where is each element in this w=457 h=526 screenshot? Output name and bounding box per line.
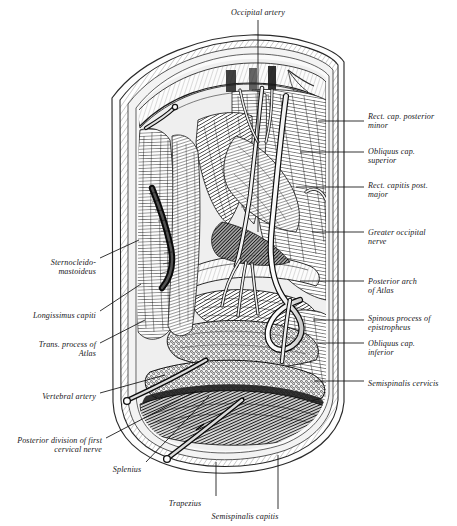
label-rect-capitis-post-major: Rect. capitis post. major	[368, 181, 428, 200]
dissection-field	[130, 50, 335, 460]
label-vertebral-artery: Vertebral artery	[42, 392, 96, 401]
label-trans-process-of-atlas: Trans. process of Atlas	[39, 340, 96, 359]
label-rect-cap-posterior-minor: Rect. cap. posterior minor	[368, 112, 434, 131]
label-occipital-artery: Occipital artery	[231, 8, 285, 17]
label-semispinalis-cervicis: Semispinalis cervicis	[368, 379, 439, 388]
label-posterior-arch-of-atlas: Posterior arch of Atlas	[368, 277, 417, 296]
label-greater-occipital-nerve: Greater occipital nerve	[368, 228, 426, 247]
label-trapezius: Trapezius	[169, 499, 202, 508]
label-splenius: Splenius	[113, 465, 141, 474]
label-posterior-division-of-first-cervical-nerve: Posterior division of first cervical ner…	[17, 436, 102, 455]
label-semispinalis-capitis: Semispinalis capitis	[212, 512, 279, 521]
label-spinous-process-of-epistropheus: Spinous process of epistropheus	[368, 314, 431, 333]
anatomical-figure: Occipital arteryRect. cap. posterior min…	[0, 0, 457, 526]
label-obliquus-cap-superior: Obliquus cap. superior	[368, 147, 415, 166]
label-obliquus-cap-inferior: Obliquus cap. inferior	[368, 339, 415, 358]
label-longissimus-capiti: Longissimus capiti	[33, 311, 96, 320]
label-sternocleido-mastoideus: Sternocleido- mastoideus	[51, 258, 96, 277]
